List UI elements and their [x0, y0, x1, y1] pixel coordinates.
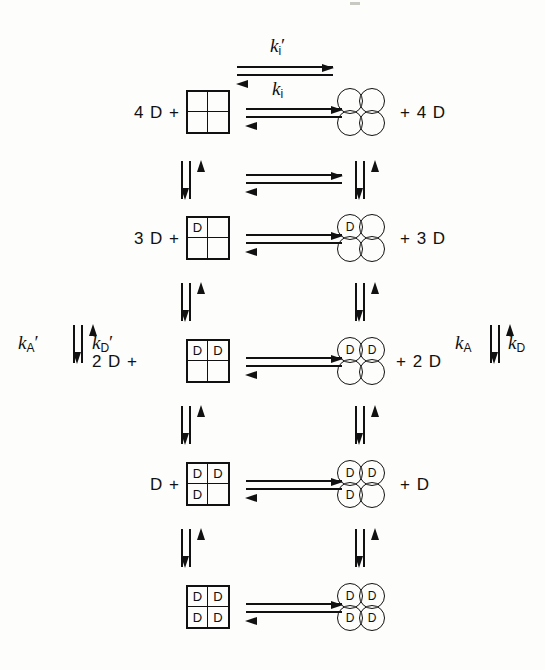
- arrowhead-left-icon: [245, 248, 257, 256]
- cluster-circle-br: [359, 110, 385, 136]
- row-4-left-reagent: D +: [150, 475, 180, 495]
- lattice-cell-tl: D: [188, 587, 208, 607]
- arrowhead-up-icon: [197, 282, 205, 294]
- scan-artifact: [350, 2, 360, 5]
- lattice-cell-tr: D: [208, 341, 228, 361]
- arrowhead-left-icon: [245, 494, 257, 502]
- arrow-bar-reverse: [246, 488, 342, 490]
- arrowhead-up-icon: [371, 160, 379, 172]
- row-5-equilibrium-arrow: [246, 599, 342, 617]
- row-1-equilibrium-arrow: [246, 104, 342, 122]
- lattice-cell-bl: [188, 112, 208, 132]
- row-1-right-reagent: + 4 D: [400, 103, 446, 123]
- cluster-circle-br: D: [359, 605, 385, 631]
- arrow-bar-forward: [246, 174, 342, 176]
- scheme-row-3: 2 D + D D D D + 2 D: [0, 316, 545, 408]
- lattice-cell-tl: D: [188, 464, 208, 484]
- lattice-cell-bl: D: [188, 607, 208, 627]
- scheme-row-5: D D D D D D D D: [0, 562, 545, 654]
- arrowhead-left-icon: [245, 371, 257, 379]
- row-3-right-reagent: + 2 D: [396, 352, 442, 372]
- row-2-lattice: D: [186, 216, 230, 260]
- arrowhead-up-icon: [371, 528, 379, 540]
- row-4-equilibrium-arrow: [246, 476, 342, 494]
- row-1-left-reagent: 4 D +: [134, 103, 180, 123]
- arrow-bar-reverse: [246, 365, 342, 367]
- arrow-bar-forward: [246, 603, 342, 605]
- lattice-cell-br: D: [208, 607, 228, 627]
- arrow-bar-reverse: [246, 182, 342, 184]
- row-4-right-reagent: + D: [400, 475, 430, 495]
- lattice-cell-br: [208, 112, 228, 132]
- lattice-cell-bl: [188, 238, 208, 258]
- lattice-cell-tl: D: [188, 341, 208, 361]
- cluster-circle-br: [359, 359, 385, 385]
- lattice-cell-bl: [188, 361, 208, 381]
- arrow-bar-forward: [246, 480, 342, 482]
- arrowhead-up-icon: [197, 160, 205, 172]
- arrow-bar-reverse: [246, 611, 342, 613]
- lattice-cell-br: [208, 484, 228, 504]
- arrowhead-right-icon: [331, 172, 343, 180]
- lattice-cell-bl: D: [188, 484, 208, 504]
- cluster-circle-br: [359, 236, 385, 262]
- lattice-cell-br: [208, 361, 228, 381]
- arrow-bar-forward: [246, 234, 342, 236]
- scheme-row-2: 3 D + D D + 3 D: [0, 193, 545, 285]
- arrowhead-up-icon: [371, 282, 379, 294]
- row-3-equilibrium-arrow: [246, 353, 342, 371]
- arrow-bar-reverse: [246, 116, 342, 118]
- row-3-left-reagent: 2 D +: [92, 352, 138, 372]
- arrow-bar-forward: [246, 108, 342, 110]
- lattice-cell-tr: D: [208, 464, 228, 484]
- lattice-cell-br: [208, 238, 228, 258]
- lattice-cell-tr: [208, 92, 228, 112]
- row-5-cluster: D D D D: [337, 583, 385, 631]
- row-2-cluster: D: [337, 214, 385, 262]
- arrowhead-up-icon: [371, 405, 379, 417]
- row-2-right-reagent: + 3 D: [400, 229, 446, 249]
- row-2-left-reagent: 3 D +: [134, 229, 180, 249]
- row-5-lattice: D D D D: [186, 585, 230, 629]
- arrow-bar-reverse: [246, 242, 342, 244]
- lattice-cell-tr: [208, 218, 228, 238]
- arrowhead-up-icon: [197, 405, 205, 417]
- row-4-lattice: D D D: [186, 462, 230, 506]
- arrowhead-left-icon: [245, 617, 257, 625]
- lattice-cell-tl: [188, 92, 208, 112]
- rate-label-top-forward: ki′: [270, 35, 285, 58]
- scheme-row-4: D + D D D D D D + D: [0, 439, 545, 531]
- row-4-cluster: D D D: [337, 460, 385, 508]
- scheme-row-1: 4 D + + 4 D: [0, 67, 545, 159]
- equilibrium-arrow-between-1-2: [246, 170, 342, 188]
- row-3-cluster: D D: [337, 337, 385, 385]
- row-2-equilibrium-arrow: [246, 230, 342, 248]
- lattice-cell-tl: D: [188, 218, 208, 238]
- arrow-bar-forward: [246, 357, 342, 359]
- cluster-circle-br: [359, 482, 385, 508]
- arrowhead-left-icon: [245, 122, 257, 130]
- lattice-cell-tr: D: [208, 587, 228, 607]
- arrowhead-up-icon: [197, 528, 205, 540]
- row-1-lattice: [186, 90, 230, 134]
- reaction-scheme-diagram: ki′ ki kA′ kD′ kA kD 4 D +: [0, 0, 545, 670]
- row-3-lattice: D D: [186, 339, 230, 383]
- row-1-cluster: [337, 88, 385, 136]
